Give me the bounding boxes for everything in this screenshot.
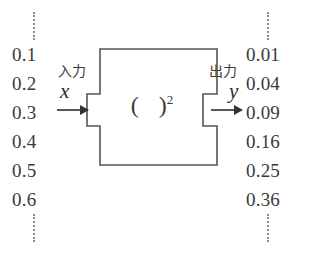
output-value-column: 0.01 0.04 0.09 0.16 0.25 0.36 <box>246 40 304 214</box>
input-value: 0.3 <box>12 98 36 127</box>
input-value: 0.1 <box>12 40 36 69</box>
input-value: 0.5 <box>12 156 36 185</box>
input-arrow-icon <box>56 102 90 118</box>
output-value: 0.25 <box>246 156 280 185</box>
input-value: 0.6 <box>12 185 36 214</box>
open-paren: ( <box>131 92 159 118</box>
output-dots-below <box>267 214 271 242</box>
input-label: 入力 <box>58 60 86 80</box>
output-value: 0.09 <box>246 98 280 127</box>
output-arrow-icon <box>210 102 244 118</box>
output-value: 0.01 <box>246 40 280 69</box>
output-dots-above <box>267 12 271 40</box>
input-dots-below <box>33 214 37 242</box>
output-value: 0.16 <box>246 127 280 156</box>
output-value: 0.36 <box>246 185 280 214</box>
input-value: 0.2 <box>12 69 36 98</box>
exponent: 2 <box>167 92 174 107</box>
output-value: 0.04 <box>246 69 280 98</box>
close-paren: ) <box>159 92 167 118</box>
input-value: 0.4 <box>12 127 36 156</box>
output-variable: y <box>229 79 238 104</box>
diagram-canvas: 0.1 0.2 0.3 0.4 0.5 0.6 0.01 0.04 0.09 0… <box>0 0 309 253</box>
input-dots-above <box>33 12 37 40</box>
input-variable: x <box>60 79 69 104</box>
function-box-label: ()2 <box>86 92 218 119</box>
